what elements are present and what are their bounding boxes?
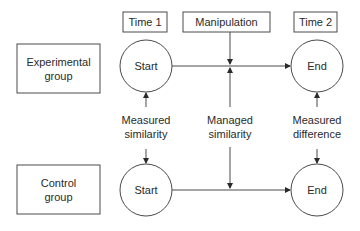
control-end-label: End [307,184,327,196]
experimental-group-box: Experimental group [17,44,100,93]
control-group-box: Control group [17,165,100,214]
measured-difference-label-line2: difference [293,128,341,140]
experimental-end-node: End [291,40,343,92]
experimental-design-diagram: Time 1 Manipulation Time 2 Experimental … [0,0,360,231]
time2-label: Time 2 [299,16,332,28]
experimental-group-label-line1: Experimental [26,56,90,68]
managed-similarity-label-line1: Managed [207,114,253,126]
experimental-end-label: End [307,60,327,72]
control-end-node: End [291,164,343,216]
experimental-start-node: Start [120,40,172,92]
measured-difference-label-line1: Measured [293,114,342,126]
time2-box: Time 2 [294,12,337,32]
experimental-group-label-line2: group [44,70,72,82]
manipulation-box: Manipulation [183,12,270,32]
experimental-start-label: Start [134,60,157,72]
control-start-node: Start [120,164,172,216]
control-group-label-line1: Control [41,177,76,189]
time1-box: Time 1 [123,12,167,32]
control-group-label-line2: group [44,191,72,203]
managed-similarity-label-line2: similarity [209,128,252,140]
time1-label: Time 1 [128,16,161,28]
control-start-label: Start [134,184,157,196]
measured-similarity-label-line1: Measured [122,114,171,126]
measured-similarity-label-line2: similarity [125,128,168,140]
manipulation-label: Manipulation [195,16,257,28]
